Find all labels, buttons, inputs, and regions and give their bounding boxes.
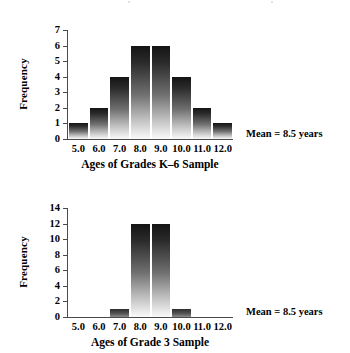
y-tick-label: 5	[55, 54, 60, 67]
y-tick: 3	[63, 92, 67, 93]
bar	[109, 77, 130, 139]
bar	[171, 77, 192, 139]
bar	[109, 309, 130, 317]
bar-group-bottom	[68, 208, 233, 317]
y-tick: 12	[63, 224, 67, 225]
y-tick-label: 0	[55, 132, 60, 145]
chart-grades-k6: Frequency 01234567 5.06.07.08.09.010.011…	[0, 10, 350, 175]
x-tick-label: 11.0	[193, 143, 211, 154]
mean-annotation-bottom: Mean = 8.5 years	[246, 306, 323, 317]
y-axis-title-top-text: Frequency	[17, 58, 29, 110]
x-tick-label: 5.0	[72, 321, 85, 332]
y-tick: 7	[63, 30, 67, 31]
y-tick: 8	[63, 255, 67, 256]
x-tick-label: 12.0	[214, 321, 232, 332]
bar	[151, 224, 172, 317]
y-tick: 10	[63, 239, 67, 240]
scan-artifact-speck	[128, 1, 130, 3]
mean-annotation-top: Mean = 8.5 years	[246, 128, 323, 139]
y-axis-title-bottom-text: Frequency	[17, 236, 29, 288]
bar	[130, 46, 151, 139]
x-tick-label: 10.0	[172, 321, 190, 332]
x-tick-label: 8.0	[134, 321, 147, 332]
y-tick-label: 3	[55, 85, 60, 98]
x-tick-label: 6.0	[92, 143, 105, 154]
y-tick: 2	[63, 301, 67, 302]
bar	[151, 46, 172, 139]
y-axis-title-bottom: Frequency	[16, 210, 30, 314]
y-axis-title-top: Frequency	[16, 32, 30, 136]
histogram-figure-page: { "chart_data": [ { "id": "grades-k6", "…	[0, 0, 350, 353]
y-tick-label: 8	[55, 248, 60, 261]
y-tick-label: 14	[50, 201, 61, 214]
x-tick-label: 8.0	[134, 143, 147, 154]
bar-group-top	[68, 30, 233, 139]
bar	[192, 108, 213, 139]
x-tick-label: 12.0	[214, 143, 232, 154]
y-tick-label: 7	[55, 23, 60, 36]
plot-area-top: 01234567	[67, 30, 233, 140]
x-tick-label: 5.0	[72, 143, 85, 154]
y-tick: 4	[63, 286, 67, 287]
bar	[171, 309, 192, 317]
y-tick: 4	[63, 77, 67, 78]
x-tick-group-bottom: 5.06.07.08.09.010.011.012.0	[67, 321, 233, 335]
y-tick: 0	[63, 139, 67, 140]
y-tick-label: 0	[55, 310, 60, 323]
y-tick-label: 2	[55, 101, 60, 114]
plot-area-bottom: 02468101214	[67, 208, 233, 318]
chart-grade-3: Frequency 02468101214 5.06.07.08.09.010.…	[0, 188, 350, 353]
x-axis-title-top: Ages of Grades K–6 Sample	[47, 158, 253, 170]
x-tick-label: 11.0	[193, 321, 211, 332]
y-tick-label: 2	[55, 294, 60, 307]
x-tick-label: 6.0	[92, 321, 105, 332]
y-tick-label: 6	[55, 39, 60, 52]
y-tick-label: 12	[50, 217, 61, 230]
y-tick-label: 10	[50, 232, 61, 245]
x-tick-label: 7.0	[113, 321, 126, 332]
y-tick: 6	[63, 46, 67, 47]
y-tick: 2	[63, 108, 67, 109]
x-axis-line-top	[67, 139, 233, 140]
bar	[130, 224, 151, 317]
bar	[89, 108, 110, 139]
y-tick-label: 4	[55, 70, 60, 83]
x-tick-group-top: 5.06.07.08.09.010.011.012.0	[67, 143, 233, 157]
y-tick-label: 1	[55, 116, 60, 129]
bar	[212, 123, 233, 139]
bar	[68, 123, 89, 139]
y-tick: 6	[63, 270, 67, 271]
scan-artifact-speck	[271, 1, 273, 3]
x-axis-title-bottom: Ages of Grade 3 Sample	[47, 336, 253, 348]
x-tick-label: 9.0	[154, 143, 167, 154]
y-tick-label: 6	[55, 263, 60, 276]
x-tick-label: 10.0	[172, 143, 190, 154]
x-tick-label: 9.0	[154, 321, 167, 332]
x-tick-label: 7.0	[113, 143, 126, 154]
x-axis-line-bottom	[67, 317, 233, 318]
y-tick: 14	[63, 208, 67, 209]
y-tick: 5	[63, 61, 67, 62]
y-tick: 1	[63, 123, 67, 124]
y-tick: 0	[63, 317, 67, 318]
y-tick-label: 4	[55, 279, 60, 292]
